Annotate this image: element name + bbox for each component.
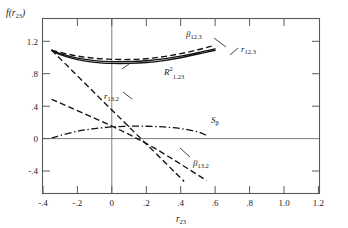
y-tick-label: .8 [31,69,38,79]
x-tick-label: .6 [212,198,219,208]
y-tick-label: 0 [34,134,39,144]
x-tick-label: -.4 [38,198,48,208]
x-tick-label: 0 [110,198,115,208]
x-tick-labels: -.4 -.2 0 .2 .4 .6 .8 1.0 1.2 [38,198,324,208]
x-tick-label: .4 [177,198,184,208]
x-tick-label: 1.2 [313,198,324,208]
y-tick-label: -.4 [28,166,38,176]
x-tick-label: 1.0 [278,198,290,208]
x-tick-label: .8 [246,198,253,208]
y-tick-label: .4 [31,102,38,112]
chart-figure: 1.2 .8 .4 0 -.4 -.4 -.2 0 .2 .4 .6 .8 1.… [0,0,348,228]
x-tick-label: -.2 [73,198,83,208]
x-tick-label: .2 [143,198,150,208]
y-tick-label: 1.2 [27,37,38,47]
